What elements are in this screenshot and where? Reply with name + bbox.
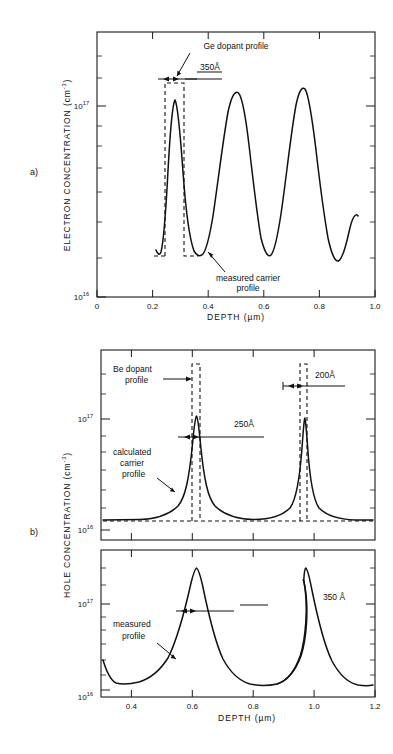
panel-b-ylabel: HOLE CONCENTRATION (cm-3)	[61, 452, 72, 598]
panel-a-xtick-04: 0.4	[203, 302, 215, 311]
panel-b-id: b)	[30, 527, 38, 537]
panel-a-ylabel: ELECTRON CONCENTRATION (cm-3)	[61, 79, 72, 252]
panel-b-width-200-label: 200Å	[315, 370, 335, 380]
panel-a-ytick-1e17: 1017	[74, 100, 89, 111]
panel-a-xtick-10: 1.0	[369, 302, 381, 311]
panel-a-xtick-08: 0.8	[314, 302, 326, 311]
panel-b-width-250-label: 250Å	[234, 419, 254, 429]
panel-b-width-250-marker	[178, 434, 264, 439]
panel-b-top-curve	[103, 416, 373, 520]
panel-b-width-350-label: 350 Å	[323, 592, 346, 602]
figure-svg: 1017 1016 0 0.2 0.4 0.6 0.8 1.0 DEPTH (µ…	[0, 0, 393, 754]
panel-a-carrier-label-2: profile	[236, 283, 259, 293]
panel-b-calc-label-3: profile	[122, 469, 145, 479]
panel-b-xtick-08: 0.8	[248, 702, 260, 711]
panel-b-top: 1017 1016 Be dopant profile 200Å 250Å	[78, 350, 375, 540]
panel-b-bottom: 1017 1016 0.4 0.6 0.8 1.0 1.2 DEPTH (µm)…	[30, 452, 381, 723]
panel-b-bottom-x-ticks	[131, 550, 375, 697]
panel-b-be-label-1: Be dopant	[113, 364, 152, 374]
panel-b-bottom-ytick-1e16: 1016	[78, 691, 93, 702]
panel-b-top-ytick-1e16: 1016	[78, 524, 93, 535]
panel-b-calc-label-2: carrier	[120, 458, 144, 468]
panel-b-calc-label-1: calculated	[113, 447, 152, 457]
panel-b-bottom-curve-2	[277, 568, 373, 686]
panel-a-id: a)	[30, 167, 38, 177]
panel-b-bottom-ytick-1e17: 1017	[78, 598, 93, 609]
panel-a-width-marker	[158, 72, 222, 82]
panel-a-xtick-0: 0	[95, 302, 100, 311]
panel-b-xtick-10: 1.0	[309, 702, 321, 711]
panel-b-top-dopant-boxes	[192, 364, 307, 521]
panel-b-xtick-12: 1.2	[369, 702, 381, 711]
panel-a-dopant-box	[152, 83, 198, 256]
panel-a-xtick-06: 0.6	[258, 302, 270, 311]
panel-b-be-label-2: profile	[125, 375, 148, 385]
panel-a-carrier-label-1: measured carrier	[216, 273, 280, 283]
panel-b-xlabel: DEPTH (µm)	[218, 713, 276, 723]
panel-a-xlabel: DEPTH (µm)	[207, 312, 265, 322]
panel-a-ytick-1e16: 1016	[74, 291, 89, 302]
panel-b-width-350-marker	[176, 605, 268, 614]
panel-b-width-200-marker	[283, 382, 345, 390]
panel-a-width-label: 350Å	[200, 62, 220, 72]
panel-b-xtick-06: 0.6	[187, 702, 199, 711]
panel-b-bottom-y-ticks	[101, 568, 375, 690]
figure-container: 1017 1016 0 0.2 0.4 0.6 0.8 1.0 DEPTH (µ…	[0, 0, 393, 754]
panel-b-measured-label-2: profile	[122, 631, 145, 641]
panel-b-xtick-04: 0.4	[126, 702, 138, 711]
panel-b-top-ytick-1e17: 1017	[78, 413, 93, 424]
panel-b-measured-label-1: measured	[113, 619, 151, 629]
panel-a-dopant-label: Ge dopant profile	[203, 41, 268, 51]
panel-b-be-arrow	[163, 376, 192, 381]
panel-a-carrier-curve	[156, 88, 358, 261]
panel-a-xtick-02: 0.2	[147, 302, 159, 311]
panel-a: 1017 1016 0 0.2 0.4 0.6 0.8 1.0 DEPTH (µ…	[30, 32, 381, 322]
